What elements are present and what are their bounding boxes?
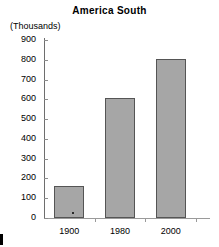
bar <box>156 59 186 218</box>
y-axis-tick-label: 600 <box>21 93 36 104</box>
bar <box>105 98 135 218</box>
y-axis-tick-label: 900 <box>21 34 36 45</box>
y-axis-tick-label: 200 <box>21 172 36 183</box>
scan-speck <box>72 212 74 214</box>
x-axis-tick-mark <box>196 218 197 222</box>
bar-chart: America South (Thousands) 90080070060050… <box>0 0 219 247</box>
y-axis-tick-label: 700 <box>21 74 36 85</box>
x-axis-label: 2000 <box>151 226 191 237</box>
bar <box>54 186 84 218</box>
x-axis-tick-mark <box>95 218 96 222</box>
x-axis-label: 1900 <box>49 226 89 237</box>
x-axis-tick-mark <box>145 218 146 222</box>
chart-title: America South <box>0 5 219 16</box>
y-axis-tick-label: 100 <box>21 192 36 203</box>
x-axis-line <box>44 218 210 219</box>
x-axis-label: 1980 <box>100 226 140 237</box>
y-axis-tick-label: 300 <box>21 153 36 164</box>
y-axis-tick-label: 800 <box>21 54 36 65</box>
plot-area <box>44 40 196 218</box>
y-axis-tick-label: 0 <box>31 212 36 223</box>
y-axis-unit-label: (Thousands) <box>10 21 61 31</box>
y-axis-tick-label: 500 <box>21 113 36 124</box>
y-axis-tick-label: 400 <box>21 133 36 144</box>
page-edge-mark <box>0 234 3 245</box>
y-axis-tick-mark <box>44 218 48 219</box>
